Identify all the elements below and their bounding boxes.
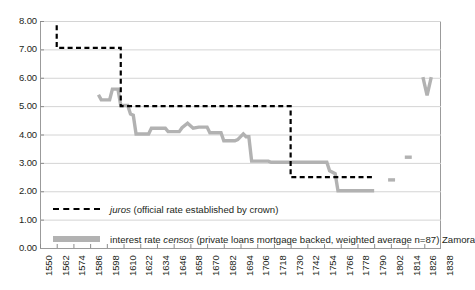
legend-label-juros: juros (official rate established by crow… <box>110 204 278 215</box>
x-axis-tick-label: 1694 <box>245 255 255 276</box>
x-axis-tick-label: 1550 <box>44 255 54 276</box>
chart-legend: juros (official rate established by crow… <box>41 188 440 247</box>
x-axis-tick-label: 1814 <box>412 255 422 276</box>
x-axis-tick-label: 1574 <box>77 255 87 276</box>
x-axis-tick-label: 1838 <box>445 255 455 276</box>
x-axis-tick-label: 1790 <box>378 255 388 276</box>
x-axis-tick-label: 1730 <box>295 255 305 276</box>
x-axis-tick-label: 1706 <box>261 255 271 276</box>
x-axis-tick-label: 1658 <box>194 255 204 276</box>
x-axis-tick-label: 1826 <box>428 255 438 276</box>
x-axis-tick-label: 1562 <box>61 255 71 276</box>
legend-item-juros: juros (official rate established by crow… <box>41 196 278 222</box>
x-axis-tick-label: 1682 <box>228 255 238 276</box>
x-axis-tick-label: 1670 <box>211 255 221 276</box>
x-axis-tick-label: 1634 <box>161 255 171 276</box>
x-axis-tick-label: 1646 <box>178 255 188 276</box>
legend-key-juros-dashed-line <box>53 202 100 216</box>
legend-label-censos-italic: censos <box>163 234 193 245</box>
legend-label-censos: interest rate censos (private loans mort… <box>110 234 475 245</box>
x-axis-tick-label: 1610 <box>128 255 138 276</box>
x-axis-tick-label: 1766 <box>345 255 355 276</box>
x-axis-tick-label: 1586 <box>94 255 104 276</box>
x-axis-tick-label: 1598 <box>111 255 121 276</box>
x-axis-tick-label: 1778 <box>361 255 371 276</box>
legend-label-censos-pre: interest rate <box>110 234 163 245</box>
x-axis-tick-label: 1802 <box>395 255 405 276</box>
legend-label-censos-post: (private loans mortgage backed, weighted… <box>194 234 475 245</box>
legend-item-censos: interest rate censos (private loans mort… <box>41 226 475 252</box>
x-axis-tick-label: 1754 <box>328 255 338 276</box>
x-axis-tick-label: 1742 <box>311 255 321 276</box>
x-axis-tick-label: 1622 <box>144 255 154 276</box>
legend-label-juros-italic: juros <box>110 204 131 215</box>
legend-key-censos-solid-line <box>53 232 100 246</box>
legend-label-juros-rest: (official rate established by crown) <box>131 204 279 215</box>
x-axis-tick-label: 1718 <box>278 255 288 276</box>
